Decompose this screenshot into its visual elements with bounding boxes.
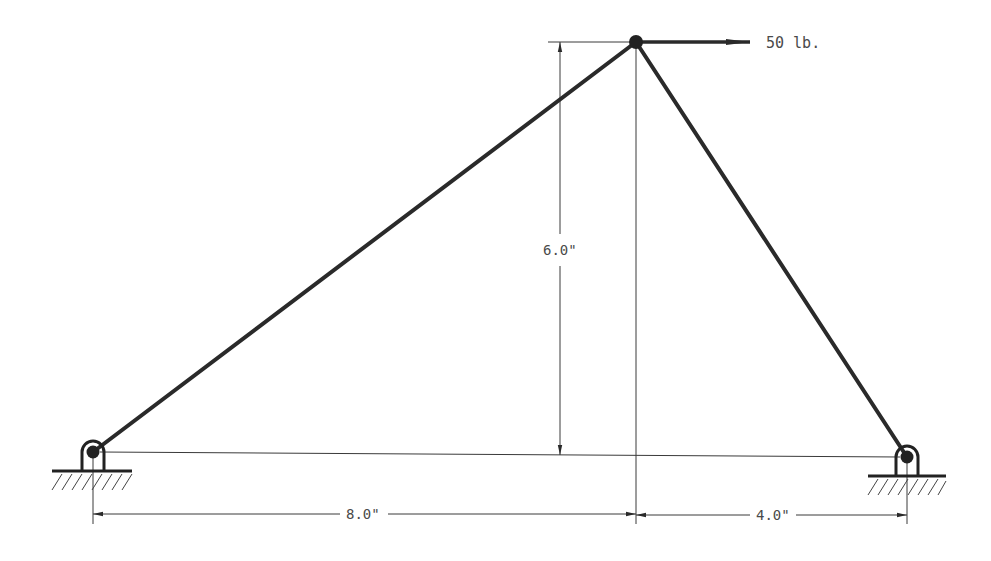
height-dimension-label: 6.0" <box>543 242 577 258</box>
reference-lines <box>93 42 907 524</box>
right-pin-joint <box>901 451 914 464</box>
apex-joint <box>629 35 643 49</box>
left-pin-support <box>52 441 132 490</box>
left-span-label: 8.0" <box>346 506 380 522</box>
right-member <box>636 42 907 457</box>
truss-diagram: 6.0" 8.0" 4.0" 50 lb. <box>0 0 991 561</box>
load-label: 50 lb. <box>766 34 820 52</box>
base-reference-line <box>100 452 900 457</box>
left-pin-joint <box>87 446 100 459</box>
right-span-label: 4.0" <box>756 507 790 523</box>
left-ground-hatch <box>52 474 132 490</box>
truss-members <box>93 42 907 457</box>
